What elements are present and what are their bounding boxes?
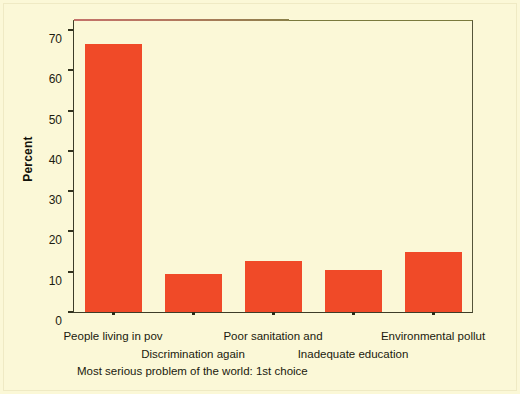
bar <box>245 261 302 312</box>
y-axis-tick-label: 70 <box>49 32 62 46</box>
y-axis-tick-label: 40 <box>49 153 62 167</box>
y-axis-tick-label: 30 <box>49 193 62 207</box>
bar <box>165 274 222 312</box>
y-axis-title: Percent <box>21 119 35 199</box>
x-axis-category-label: Environmental pollut <box>381 330 485 342</box>
y-axis-tick-label: 20 <box>49 233 62 247</box>
y-axis-tick-label: 0 <box>55 314 62 328</box>
x-axis-tick <box>272 312 275 315</box>
x-axis-tick <box>352 312 355 315</box>
x-axis-tick <box>112 312 115 315</box>
chart-caption: Most serious problem of the world: 1st c… <box>77 365 308 377</box>
x-axis-tick <box>192 312 195 315</box>
y-axis-tick-label: 10 <box>49 274 62 288</box>
bar-series <box>73 20 473 313</box>
bar <box>405 252 462 312</box>
x-axis-tick <box>432 312 435 315</box>
y-axis-tick-label: 50 <box>49 113 62 127</box>
x-axis-category-label: Poor sanitation and <box>223 330 322 342</box>
y-axis-tick-label: 60 <box>49 72 62 86</box>
x-axis-category-label: People living in pov <box>63 330 162 342</box>
chart-page: 010203040506070 Percent People living in… <box>0 0 520 394</box>
x-axis-category-label: Inadequate education <box>298 348 409 360</box>
bar <box>85 44 142 312</box>
x-axis-category-label: Discrimination again <box>141 348 245 360</box>
bar <box>325 270 382 312</box>
